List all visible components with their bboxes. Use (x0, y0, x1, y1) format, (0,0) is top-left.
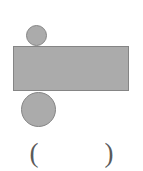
answer-blank-field[interactable] (39, 144, 105, 164)
close-paren: ) (105, 140, 114, 167)
rectangle-shape (13, 46, 129, 91)
large-circle-shape (21, 92, 56, 127)
open-paren: ( (30, 140, 39, 167)
answer-parentheses: ( ) (0, 136, 143, 171)
small-circle-shape (26, 25, 47, 46)
figure-canvas: ( ) (0, 0, 143, 171)
